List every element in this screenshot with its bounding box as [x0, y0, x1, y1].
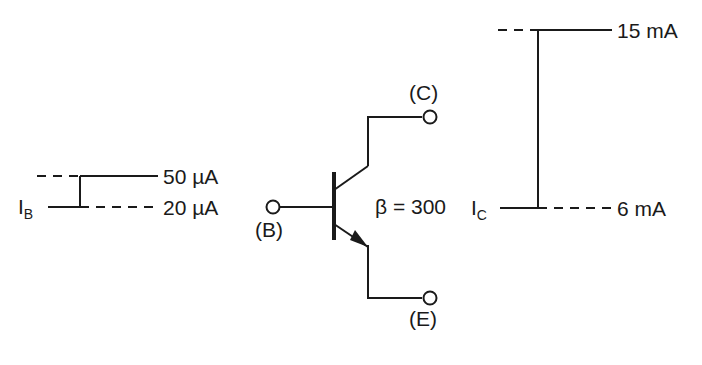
base-terminal-label: (B) [255, 219, 283, 240]
input-high-level-label: 50 µA [163, 166, 218, 187]
emitter-terminal-label: (E) [409, 308, 437, 329]
output-signal-subscript: C [477, 207, 487, 223]
circuit-diagram-svg [0, 0, 702, 365]
output-waveform-group [498, 30, 612, 208]
diagram-canvas: IB 50 µA 20 µA (C) (B) (E) β = 300 IC 15… [0, 0, 702, 365]
input-signal-label: IB [18, 196, 33, 221]
output-signal-label: IC [471, 197, 487, 222]
emitter-terminal-node [424, 292, 437, 305]
transistor-collector-lead [368, 117, 422, 166]
emitter-arrow-icon [350, 230, 368, 247]
input-low-level-label: 20 µA [163, 197, 218, 218]
input-signal-subscript: B [24, 206, 33, 222]
output-high-level-label: 15 mA [617, 20, 678, 41]
output-low-level-label: 6 mA [617, 198, 666, 219]
transistor-collector-diagonal [334, 166, 368, 190]
base-terminal-node [267, 201, 280, 214]
transistor-emitter-lead [368, 245, 422, 298]
collector-terminal-label: (C) [409, 82, 438, 103]
input-waveform-group [37, 176, 158, 207]
collector-terminal-node [424, 111, 437, 124]
beta-gain-label: β = 300 [375, 196, 446, 217]
